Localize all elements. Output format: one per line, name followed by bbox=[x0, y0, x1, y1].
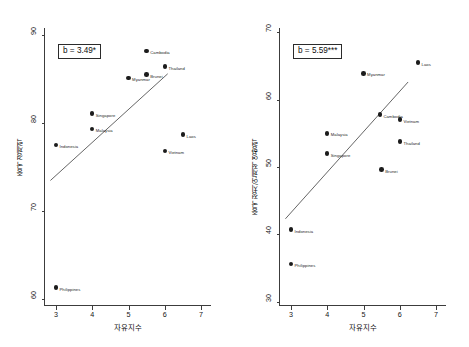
y-axis-title-left: 중국 경제력 bbox=[17, 139, 24, 176]
scatter-point-label: Brunei bbox=[385, 170, 397, 174]
x-axis-tick bbox=[56, 306, 57, 310]
y-axis-tick-label: 40 bbox=[265, 226, 272, 234]
scatter-point-label: Cambodia bbox=[150, 51, 170, 55]
scatter-point bbox=[361, 71, 366, 76]
chart-panel-right: 304050607034567LaosMyanmarCambodiaVietna… bbox=[235, 0, 469, 347]
y-axis-tick-label: 90 bbox=[30, 27, 37, 35]
x-axis-tick-label: 6 bbox=[398, 311, 402, 318]
scatter-point-label: Laos bbox=[187, 135, 196, 139]
y-axis-tick-label: 50 bbox=[265, 159, 272, 167]
x-axis-tick-label: 6 bbox=[163, 311, 167, 318]
plot-frame-right: 304050607034567LaosMyanmarCambodiaVietna… bbox=[279, 28, 446, 306]
scatter-point-label: Myanmar bbox=[367, 73, 385, 77]
scatter-point-label: Singapore bbox=[331, 154, 351, 158]
y-axis-tick-label: 60 bbox=[30, 291, 37, 299]
x-axis-tick-label: 7 bbox=[199, 311, 203, 318]
x-axis-tick-label: 4 bbox=[325, 311, 329, 318]
scatter-point bbox=[54, 285, 59, 290]
plot-area-right: 304050607034567LaosMyanmarCambodiaVietna… bbox=[280, 28, 446, 305]
scatter-point bbox=[379, 167, 384, 172]
scatter-point-label: Thailand bbox=[403, 142, 419, 146]
x-axis-tick bbox=[291, 306, 292, 310]
chart-panel-left: 6070809034567CambodiaThailandBruneiMyanm… bbox=[0, 0, 234, 347]
x-axis-title-right: 자유지수 bbox=[349, 324, 377, 331]
scatter-point bbox=[90, 111, 95, 116]
scatter-point-label: Thailand bbox=[168, 67, 184, 71]
x-axis-tick bbox=[400, 306, 401, 310]
figure-root: 6070809034567CambodiaThailandBruneiMyanm… bbox=[0, 0, 469, 347]
x-axis-tick bbox=[364, 306, 365, 310]
x-axis-tick bbox=[92, 306, 93, 310]
y-axis-tick-label: 30 bbox=[265, 294, 272, 302]
coefficient-annotation-left: b = 3.49* bbox=[58, 44, 101, 59]
scatter-point bbox=[163, 149, 168, 154]
x-axis-tick-label: 7 bbox=[434, 311, 438, 318]
scatter-point bbox=[54, 143, 59, 148]
y-axis-tick bbox=[277, 100, 281, 101]
scatter-point-label: Brunei bbox=[150, 75, 162, 79]
x-axis-tick-label: 4 bbox=[90, 311, 94, 318]
x-axis-tick-label: 5 bbox=[127, 311, 131, 318]
y-axis-tick-label: 60 bbox=[265, 92, 272, 100]
scatter-point-label: Vietnam bbox=[168, 151, 184, 155]
plot-area-left: 6070809034567CambodiaThailandBruneiMyanm… bbox=[45, 28, 211, 305]
scatter-point bbox=[144, 72, 149, 77]
scatter-point bbox=[325, 131, 330, 136]
plot-frame-left: 6070809034567CambodiaThailandBruneiMyanm… bbox=[44, 28, 211, 306]
scatter-point bbox=[289, 262, 294, 267]
y-axis-tick-label: 70 bbox=[265, 24, 272, 32]
y-axis-tick bbox=[277, 32, 281, 33]
scatter-point bbox=[416, 60, 421, 65]
scatter-point-label: Malaysia bbox=[96, 129, 113, 133]
y-axis-tick-label: 70 bbox=[30, 203, 37, 211]
y-axis-tick bbox=[277, 302, 281, 303]
scatter-point-label: Malaysia bbox=[331, 133, 348, 137]
scatter-point-label: Philippines bbox=[59, 288, 80, 292]
scatter-point bbox=[144, 49, 149, 54]
y-axis-title-right: 중국 정치/언제적 영향력 bbox=[252, 139, 259, 215]
scatter-point bbox=[378, 112, 383, 117]
scatter-point bbox=[325, 151, 330, 156]
scatter-point bbox=[126, 76, 131, 81]
y-axis-tick bbox=[42, 123, 46, 124]
x-axis-tick bbox=[201, 306, 202, 310]
scatter-point bbox=[289, 227, 294, 232]
y-axis-tick bbox=[42, 35, 46, 36]
scatter-point bbox=[90, 127, 95, 132]
regression-line-left bbox=[45, 28, 211, 305]
x-axis-title-left: 자유지수 bbox=[114, 324, 142, 331]
scatter-point bbox=[163, 64, 168, 69]
x-axis-tick bbox=[327, 306, 328, 310]
x-axis-tick bbox=[129, 306, 130, 310]
scatter-point-label: Philippines bbox=[294, 264, 315, 268]
scatter-point bbox=[181, 132, 186, 137]
y-axis-tick bbox=[42, 211, 46, 212]
y-axis-tick bbox=[277, 234, 281, 235]
scatter-point-label: Singapore bbox=[96, 114, 116, 118]
scatter-point-label: Myanmar bbox=[132, 78, 150, 82]
y-axis-tick bbox=[277, 167, 281, 168]
x-axis-tick-label: 3 bbox=[289, 311, 293, 318]
scatter-point-label: Laos bbox=[422, 63, 431, 67]
x-axis-tick-label: 5 bbox=[362, 311, 366, 318]
x-axis-tick-label: 3 bbox=[54, 311, 58, 318]
x-axis-tick bbox=[436, 306, 437, 310]
scatter-point bbox=[398, 139, 403, 144]
scatter-point-label: Vietnam bbox=[403, 120, 419, 124]
scatter-point-label: Indonesia bbox=[59, 145, 78, 149]
y-axis-tick-label: 80 bbox=[30, 115, 37, 123]
coefficient-annotation-right: b = 5.59*** bbox=[293, 44, 342, 59]
x-axis-tick bbox=[165, 306, 166, 310]
y-axis-tick bbox=[42, 299, 46, 300]
scatter-point bbox=[398, 117, 403, 122]
scatter-point-label: Indonesia bbox=[294, 230, 313, 234]
